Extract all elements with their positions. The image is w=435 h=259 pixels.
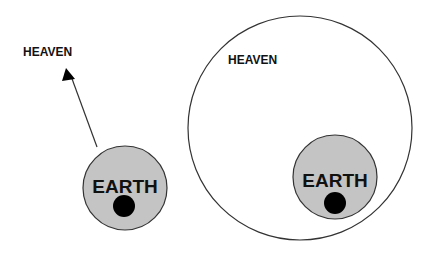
heaven-circle [188,16,412,240]
right-diagram: HEAVEN EARTH [188,16,412,240]
heaven-earth-diagram: HEAVEN EARTH HEAVEN EARTH [0,0,435,259]
left-earth-label: EARTH [92,176,157,197]
left-earth-dot [113,195,135,217]
arrow-line [71,76,97,147]
right-heaven-label: HEAVEN [228,53,277,67]
arrow-head-icon [62,68,75,81]
right-earth-label: EARTH [302,170,367,191]
left-diagram: HEAVEN EARTH [23,45,167,230]
left-heaven-label: HEAVEN [23,45,72,59]
right-earth-dot [324,192,346,214]
